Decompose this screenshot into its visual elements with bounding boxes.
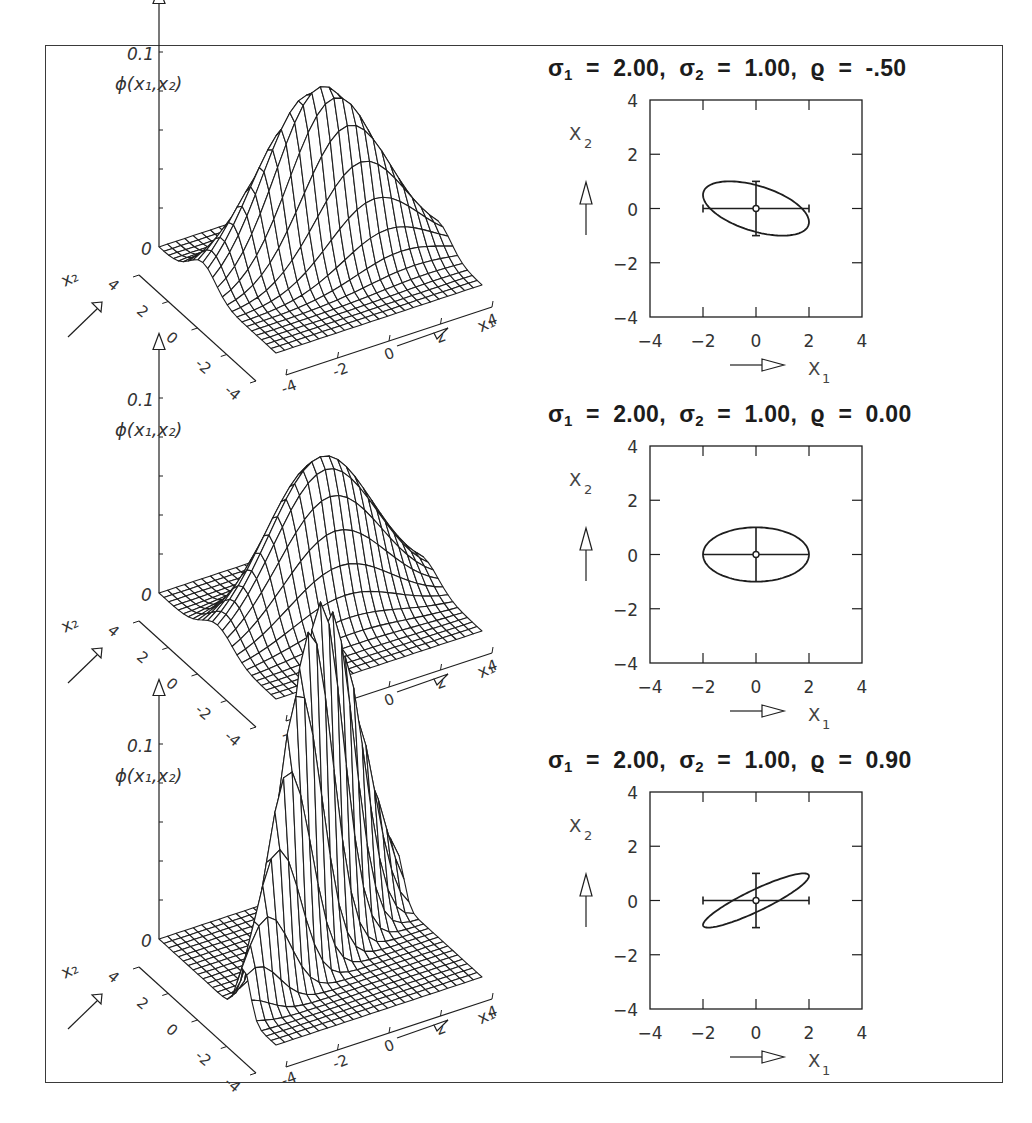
surface-plots: 0.10ϕ(x₁,x₂)-4-2024x₂-4-2024x₁0.10ϕ(x₁,x…: [58, 0, 500, 1096]
x2-tick-label: −4: [613, 308, 638, 328]
surface-plot-2: 0.10ϕ(x₁,x₂)-4-2024x₂-4-2024x₁: [58, 334, 500, 751]
x1-arrow-icon: [762, 359, 784, 371]
x2-tick-label: -4: [221, 381, 244, 404]
x2-tick-label: 2: [627, 837, 638, 857]
x2-tick-label: -4: [221, 1073, 244, 1096]
x1-arrow-shaft: [397, 679, 434, 692]
x1-tick-label: 0: [382, 690, 397, 710]
x1-tick-label: 0: [382, 1036, 397, 1056]
ellipse-plot-1: −4−4−2−2002244X1X2: [569, 91, 867, 386]
x2-tick-label: -4: [221, 727, 244, 750]
x2-tick-label: −2: [613, 600, 638, 620]
x2-tick-label: 0: [627, 546, 638, 566]
z-tick-label-max: 0.1: [127, 736, 154, 756]
x2-arrow-icon: [580, 528, 592, 550]
x2-tick-label: -2: [192, 355, 215, 378]
x1-tick-label: −2: [690, 677, 715, 697]
x2-tick-label: 0: [162, 328, 181, 348]
x2-tick-label: 4: [627, 783, 638, 803]
x2-arrow-icon: [580, 874, 592, 896]
x1-tick-label: 0: [751, 331, 762, 351]
x2-tick-label: 4: [104, 621, 123, 641]
x1-tick-label: −4: [637, 331, 662, 351]
x1-arrow-shaft: [397, 1025, 434, 1038]
x1-tick-label: −2: [690, 331, 715, 351]
x2-arrow-shaft: [68, 308, 98, 337]
figure-canvas: 0.10ϕ(x₁,x₂)-4-2024x₂-4-2024x₁0.10ϕ(x₁,x…: [0, 0, 1032, 1123]
x1-tick-label: -4: [279, 376, 299, 398]
x2-tick-label: 0: [162, 1020, 181, 1040]
x1-tick-label: -4: [279, 1068, 299, 1090]
x1-arrow-icon: [762, 1051, 784, 1063]
surface-mesh: [159, 87, 482, 353]
center-marker: [753, 206, 759, 212]
ellipse-plot-2: −4−4−2−2002244X1X2: [569, 437, 867, 732]
x1-arrow-icon: [762, 705, 784, 717]
x2-tick-label: −4: [613, 654, 638, 674]
x1-tick-label: 4: [857, 331, 868, 351]
x2-arrow-icon: [92, 648, 102, 658]
x2-tick-label: 0: [627, 200, 638, 220]
x2-arrow-shaft: [68, 654, 98, 683]
x2-tick-label: -2: [192, 1047, 215, 1070]
x1-tick-label: 2: [804, 331, 815, 351]
x1-axis-label: X: [808, 358, 820, 379]
x1-tick-label: −2: [690, 1023, 715, 1043]
x2-axis-sub: 2: [584, 136, 592, 151]
x2-tick-label: −2: [613, 946, 638, 966]
x1-tick-label: −4: [637, 677, 662, 697]
x2-tick-label: -2: [192, 701, 215, 724]
x1-tick-label: 2: [804, 1023, 815, 1043]
x1-tick-label: −4: [637, 1023, 662, 1043]
x2-tick-label: −2: [613, 254, 638, 274]
x2-tick-label: −4: [613, 1000, 638, 1020]
x2-axis-label: X: [569, 123, 581, 144]
x1-tick-label: 4: [857, 677, 868, 697]
x1-tick-label: -2: [330, 1051, 350, 1073]
x1-tick-label: -2: [330, 359, 350, 381]
z-tick-label-zero: 0: [141, 585, 152, 605]
x2-tick-label: 2: [133, 302, 152, 322]
x2-axis-label: X: [569, 469, 581, 490]
x2-tick-label: 4: [104, 967, 123, 987]
x1-axis-sub: 1: [822, 717, 830, 732]
x2-tick-label: 2: [133, 648, 152, 668]
x2-tick-label: 2: [627, 491, 638, 511]
x1-axis-label: X: [808, 704, 820, 725]
x1-arrow-shaft: [397, 333, 434, 346]
x1-tick-label: 0: [751, 1023, 762, 1043]
x2-tick-label: 2: [133, 994, 152, 1014]
z-tick-label-zero: 0: [141, 931, 152, 951]
z-axis-label: ϕ(x₁,x₂): [115, 73, 182, 94]
ellipse-plot-3: −4−4−2−2002244X1X2: [569, 783, 867, 1078]
x2-arrow-icon: [92, 994, 102, 1004]
z-axis-label: ϕ(x₁,x₂): [115, 765, 182, 786]
x1-tick-label: 0: [751, 677, 762, 697]
x2-axis-sub: 2: [584, 482, 592, 497]
x2-axis-sub: 2: [584, 828, 592, 843]
z-tick-label-max: 0.1: [127, 390, 154, 410]
z-axis-label: ϕ(x₁,x₂): [115, 419, 182, 440]
surface-plot-1: 0.10ϕ(x₁,x₂)-4-2024x₂-4-2024x₁: [58, 0, 500, 404]
z-axis-arrow-icon: [153, 0, 165, 4]
surface-mesh: [159, 602, 482, 1045]
z-tick-label-max: 0.1: [127, 44, 154, 64]
x2-tick-label: 0: [162, 674, 181, 694]
x2-axis-label: x₂: [58, 611, 82, 636]
x2-tick-label: 4: [627, 437, 638, 457]
ellipse-plots: −4−4−2−2002244X1X2−4−4−2−2002244X1X2−4−4…: [569, 91, 867, 1078]
x2-tick-label: 4: [627, 91, 638, 111]
x1-tick-label: 4: [857, 1023, 868, 1043]
x1-axis-sub: 1: [822, 371, 830, 386]
x1-axis-label: X: [808, 1050, 820, 1071]
x2-arrow-icon: [92, 302, 102, 312]
x2-arrow-shaft: [68, 1000, 98, 1029]
x2-tick-label: 0: [627, 892, 638, 912]
x2-arrow-icon: [580, 182, 592, 204]
x2-tick-label: 4: [104, 275, 123, 295]
x1-axis-sub: 1: [822, 1063, 830, 1078]
z-tick-label-zero: 0: [141, 239, 152, 259]
x2-axis-label: X: [569, 815, 581, 836]
x2-tick-label: 2: [627, 145, 638, 165]
center-marker: [753, 898, 759, 904]
